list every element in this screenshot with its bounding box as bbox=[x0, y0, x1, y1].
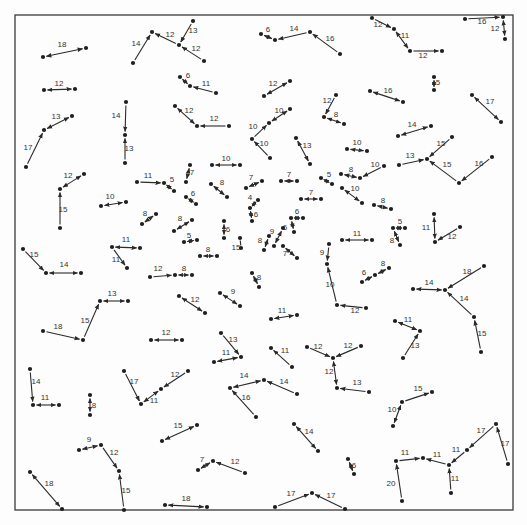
node-dot bbox=[99, 443, 103, 447]
segment-label: 6 bbox=[266, 25, 271, 34]
node-dot bbox=[173, 273, 177, 277]
node-dot bbox=[188, 84, 192, 88]
node-dot bbox=[364, 306, 368, 310]
segment-line bbox=[46, 332, 79, 339]
segment-label: 16 bbox=[242, 393, 251, 402]
node-dot bbox=[21, 247, 25, 251]
node-dot bbox=[465, 448, 469, 452]
node-dot bbox=[310, 491, 314, 495]
segment-line bbox=[46, 49, 82, 57]
segment-label: 6 bbox=[226, 225, 231, 234]
node-dot bbox=[172, 229, 176, 233]
node-dot bbox=[319, 176, 323, 180]
node-dot bbox=[418, 329, 422, 333]
node-dot bbox=[501, 15, 505, 19]
node-dot bbox=[173, 104, 177, 108]
segment-label: 15 bbox=[414, 384, 423, 393]
segment-label: 14 bbox=[460, 294, 469, 303]
node-dot bbox=[225, 195, 229, 199]
node-dot bbox=[88, 413, 92, 417]
segment-label: 11 bbox=[404, 315, 413, 324]
node-dot bbox=[345, 147, 349, 151]
node-dot bbox=[430, 390, 434, 394]
segment-label: 18 bbox=[182, 494, 191, 503]
node-dot bbox=[368, 89, 372, 93]
segment-label: 17 bbox=[130, 377, 139, 386]
segment-label: 17 bbox=[501, 439, 510, 448]
node-dot bbox=[331, 356, 335, 360]
segment-label: 12 bbox=[314, 342, 323, 351]
segment-label: 11 bbox=[222, 348, 231, 357]
segment-label: 17 bbox=[287, 489, 296, 498]
segment-label: 6 bbox=[191, 189, 196, 198]
segment-label: 15 bbox=[30, 250, 39, 259]
node-dot bbox=[215, 254, 219, 258]
segment-line bbox=[167, 185, 172, 189]
segment-line bbox=[217, 358, 237, 362]
segment-label: 10 bbox=[388, 405, 397, 414]
segment-line bbox=[140, 182, 160, 183]
node-dot bbox=[382, 164, 386, 168]
node-dot bbox=[339, 172, 343, 176]
segment-label: 13 bbox=[353, 378, 362, 387]
node-dot bbox=[398, 243, 402, 247]
node-dot bbox=[196, 468, 200, 472]
segment-line bbox=[503, 20, 504, 35]
node-dot bbox=[139, 402, 143, 406]
segments-layer: 1812131714121312611121214136141612111216… bbox=[21, 15, 510, 512]
node-dot bbox=[82, 172, 86, 176]
segment-label: 6 bbox=[254, 210, 259, 219]
node-dot bbox=[358, 176, 362, 180]
node-dot bbox=[391, 424, 395, 428]
segment-label: 11 bbox=[41, 393, 50, 402]
segment-label: 14 bbox=[408, 120, 417, 129]
node-dot bbox=[150, 30, 154, 34]
node-dot bbox=[260, 179, 264, 183]
node-dot bbox=[88, 393, 92, 397]
node-dot bbox=[60, 507, 64, 511]
segment-line bbox=[223, 295, 237, 304]
node-dot bbox=[140, 222, 144, 226]
segment-label: 12 bbox=[323, 96, 332, 105]
segment-label: 18 bbox=[463, 267, 472, 276]
segment-line bbox=[434, 217, 435, 238]
node-dot bbox=[432, 88, 436, 92]
node-dot bbox=[228, 386, 232, 390]
segment-line bbox=[394, 231, 398, 242]
segment-label: 8 bbox=[381, 196, 386, 205]
node-dot bbox=[403, 226, 407, 230]
node-dot bbox=[79, 271, 83, 275]
segment-label: 12 bbox=[192, 44, 201, 53]
segment-line bbox=[265, 239, 268, 246]
node-dot bbox=[392, 27, 396, 31]
segment-label: 14 bbox=[240, 371, 249, 380]
node-dot bbox=[180, 338, 184, 342]
segment-label: 11 bbox=[433, 450, 442, 459]
node-dot bbox=[322, 115, 326, 119]
segment-label: 12 bbox=[154, 264, 163, 273]
node-dot bbox=[99, 204, 103, 208]
node-dot bbox=[209, 182, 213, 186]
node-dot bbox=[391, 226, 395, 230]
node-dot bbox=[123, 161, 127, 165]
node-dot bbox=[160, 439, 164, 443]
node-dot bbox=[125, 266, 129, 270]
node-dot bbox=[58, 226, 62, 230]
node-dot bbox=[503, 37, 507, 41]
node-dot bbox=[288, 79, 292, 83]
segment-label: 15 bbox=[478, 329, 487, 338]
segment-line bbox=[278, 33, 306, 39]
node-dot bbox=[191, 19, 195, 23]
node-dot bbox=[269, 317, 273, 321]
segment-line bbox=[104, 203, 122, 206]
node-dot bbox=[42, 88, 46, 92]
node-dot bbox=[443, 288, 447, 292]
segment-label: 11 bbox=[451, 474, 460, 483]
node-dot bbox=[400, 400, 404, 404]
node-dot bbox=[262, 94, 266, 98]
segment-label: 10 bbox=[275, 106, 284, 115]
segment-label: 17 bbox=[327, 491, 336, 500]
segment-label: 11 bbox=[401, 31, 410, 40]
node-dot bbox=[346, 457, 350, 461]
node-dot bbox=[182, 240, 186, 244]
